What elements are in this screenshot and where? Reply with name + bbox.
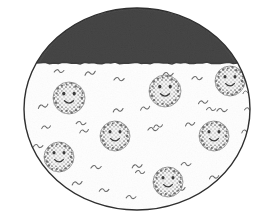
face-eye [223,75,226,79]
face-stipple-dot [153,80,156,83]
face-stipple-dot [223,126,225,128]
face-eye [169,85,172,89]
face-stipple-dot [166,75,168,77]
face-stipple-dot [211,147,213,149]
face-stipple-dot [157,189,159,191]
smiley-face-icon [53,82,85,114]
face-stipple-dot [47,147,50,150]
face-stipple-dot [177,172,179,174]
face-stipple-dot [160,193,162,195]
face-stipple-dot [56,92,58,94]
face-stipple-dot [170,78,173,81]
face-stipple-dot [71,161,73,163]
face-core [50,148,69,167]
face-stipple-dot [57,87,60,90]
face-stipple-dot [44,156,46,158]
face-stipple-dot [81,97,84,100]
face-stipple-dot [175,99,177,101]
face-stipple-dot [177,190,179,192]
face-stipple-dot [157,77,159,79]
face-stipple-dot [60,169,62,171]
face-stipple-dot [235,91,237,93]
face-stipple-dot [112,122,114,124]
face-stipple-dot [56,143,58,145]
face-stipple-dot [104,143,106,145]
face-core [106,127,125,146]
face-core [205,127,224,146]
face-stipple-dot [102,139,104,141]
face-stipple-dot [165,168,167,170]
face-stipple-dot [202,126,205,129]
smiley-face-icon [215,66,245,96]
face-stipple-dot [66,110,68,112]
face-stipple-dot [241,80,244,83]
face-stipple-dot [107,123,109,125]
face-stipple-dot [175,81,177,83]
smiley-face-icon [199,121,229,151]
illustration-canvas: Hand-drawn ellipse diagram with shaded c… [0,0,270,219]
face-stipple-dot [151,95,153,97]
face-stipple-dot [53,97,55,99]
face-stipple-dot [100,135,102,137]
face-stipple-dot [242,85,244,87]
face-stipple-dot [231,93,233,95]
face-core [155,81,175,101]
face-stipple-dot [169,194,171,196]
face-stipple-dot [219,146,221,148]
face-stipple-dot [227,92,229,94]
face-stipple-dot [201,131,203,133]
face-stipple-dot [217,76,219,78]
face-stipple-dot [64,145,67,148]
face-stipple-dot [215,80,217,82]
face-stipple-dot [226,130,228,132]
face-stipple-dot [112,147,114,149]
face-stipple-dot [156,172,159,175]
smiley-face-icon [149,75,181,107]
face-stipple-dot [178,95,180,97]
face-stipple-dot [226,140,228,142]
face-stipple-dot [217,84,219,86]
face-stipple-dot [48,164,50,166]
face-stipple-dot [102,131,104,133]
smiley-face-icon [100,121,130,151]
smiley-face-icon [153,167,183,197]
face-stipple-dot [199,135,201,137]
face-stipple-dot [222,68,224,70]
face-stipple-dot [155,185,157,187]
face-eye [161,176,164,180]
face-eye [52,151,55,155]
face-stipple-dot [157,103,159,105]
face-core [59,88,79,108]
face-stipple-dot [162,103,164,105]
face-stipple-dot [107,147,109,149]
face-stipple-dot [173,170,176,173]
face-stipple-dot [211,122,213,124]
face-stipple-dot [149,90,151,92]
face-stipple-dot [235,69,238,72]
face-stipple-dot [180,186,182,188]
face-stipple-dot [70,111,72,113]
face-stipple-dot [57,106,59,108]
face-stipple-dot [166,104,168,106]
face-stipple-dot [82,92,84,94]
face-stipple-dot [169,167,171,169]
face-stipple-dot [153,99,155,101]
face-stipple-dot [155,177,157,179]
face-stipple-dot [153,181,155,183]
face-stipple-dot [160,169,162,171]
face-stipple-dot [55,102,57,104]
face-eye [158,85,161,89]
face-stipple-dot [218,71,221,74]
face-stipple-dot [66,84,68,86]
face-stipple-dot [68,147,70,149]
face-stipple-dot [120,124,123,127]
face-stipple-dot [222,92,224,94]
face-stipple-dot [61,84,63,86]
face-eye [62,92,65,96]
face-eye [207,130,210,134]
face-stipple-dot [75,109,77,111]
face-stipple-dot [171,102,173,104]
face-stipple-dot [239,89,241,91]
face-stipple-dot [116,121,118,123]
face-stipple-dot [201,139,203,141]
